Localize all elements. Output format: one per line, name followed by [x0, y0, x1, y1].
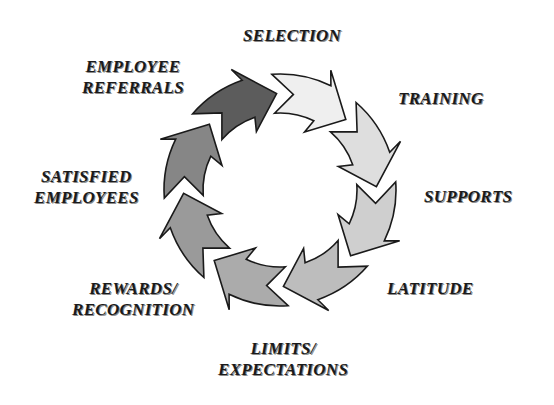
label-latitude-line1: LATITUDE	[387, 278, 473, 299]
label-rewards-recognition-line2: RECOGNITION	[72, 299, 194, 320]
label-rewards-recognition-line1: REWARDS/	[72, 278, 194, 299]
arrow-selection	[272, 70, 346, 132]
label-training-line1: TRAINING	[398, 88, 484, 109]
label-satisfied-employees-line1: SATISFIED	[34, 166, 139, 187]
label-satisfied-employees: SATISFIED EMPLOYEES	[34, 166, 139, 208]
label-employee-referrals-line1: EMPLOYEE	[82, 56, 184, 77]
label-latitude: LATITUDE	[387, 278, 473, 299]
arrow-satisfied-employees	[160, 124, 222, 198]
label-limits-expectations-line1: LIMITS/	[218, 338, 348, 359]
label-supports: SUPPORTS	[424, 186, 512, 207]
label-satisfied-employees-line2: EMPLOYEES	[34, 187, 139, 208]
label-employee-referrals: EMPLOYEE REFERRALS	[82, 56, 184, 98]
label-selection-line1: SELECTION	[243, 25, 341, 46]
label-training: TRAINING	[398, 88, 484, 109]
arrow-limits-expectations	[214, 248, 288, 310]
label-supports-line1: SUPPORTS	[424, 186, 512, 207]
label-rewards-recognition: REWARDS/ RECOGNITION	[72, 278, 194, 320]
label-selection: SELECTION	[243, 25, 341, 46]
label-limits-expectations-line2: EXPECTATIONS	[218, 359, 348, 380]
arrow-supports	[338, 182, 400, 256]
label-limits-expectations: LIMITS/ EXPECTATIONS	[218, 338, 348, 380]
label-employee-referrals-line2: REFERRALS	[82, 77, 184, 98]
